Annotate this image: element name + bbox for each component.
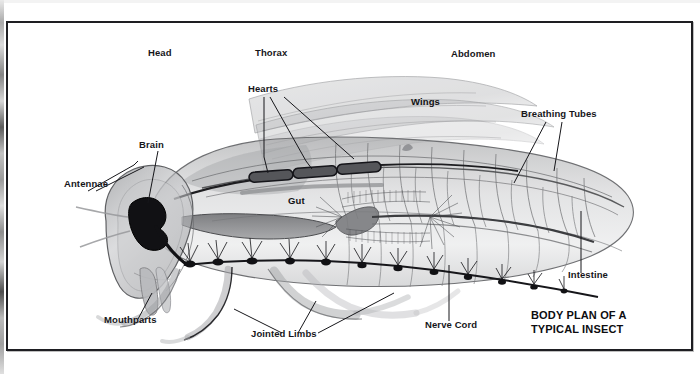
label-gut: Gut [288,196,305,207]
far-hindleg-tarsus [416,291,458,313]
label-intestine: Intestine [568,270,608,281]
label-brain: Brain [139,140,164,151]
label-antennae: Antennae [64,179,108,190]
ganglion [498,279,506,285]
ganglion [393,265,402,271]
ganglion [357,262,366,268]
label-wings: Wings [411,97,440,108]
abdomen-thorax-outline [152,137,633,286]
ganglion [530,284,538,289]
midleg-tarsus [162,337,188,342]
figure-title-line-2: TYPICAL INSECT [531,323,627,337]
ganglion [430,269,439,275]
scan-edge-top [0,0,700,3]
ganglion [213,258,224,265]
label-abdomen: Abdomen [451,49,496,60]
ganglion [321,259,331,266]
insect-anatomy-illustration [6,21,693,351]
label-jointed-limbs: Jointed Limbs [251,329,317,340]
heart-chamber-1 [249,169,294,182]
figure-page: Head Thorax Abdomen Wings Gut Hearts Bre… [0,0,700,374]
label-breathing-tubes: Breathing Tubes [521,109,597,120]
ganglion [464,274,472,280]
heart-chamber-3 [337,161,382,174]
illustration-plate: Head Thorax Abdomen Wings Gut Hearts Bre… [6,21,693,351]
label-hearts: Hearts [248,84,278,95]
ganglion [285,258,295,265]
ganglion [561,289,568,294]
scan-edge-left [0,0,4,374]
label-nerve-cord: Nerve Cord [425,320,477,331]
label-thorax: Thorax [255,48,287,59]
heart-chamber-2 [293,165,338,178]
label-mouthparts: Mouthparts [104,315,157,326]
ganglion [247,257,258,264]
figure-title: BODY PLAN OF A TYPICAL INSECT [531,309,627,337]
label-head: Head [148,48,172,59]
ganglion [185,260,196,267]
figure-title-line-1: BODY PLAN OF A [531,309,627,323]
